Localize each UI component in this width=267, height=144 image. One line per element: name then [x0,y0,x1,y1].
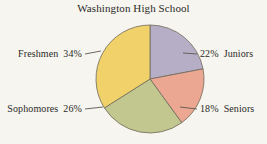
slice-label-seniors-percent: 18% [200,103,219,114]
slice-label-sophomores-name: Sophomores [7,103,58,114]
slice-label-juniors-percent: 22% [200,48,219,59]
slice-label-seniors-name: Seniors [224,103,255,114]
pie-chart-graphic [0,0,267,144]
slice-label-freshmen-name: Freshmen [18,48,58,59]
leader-line-sophomores [85,107,103,109]
leader-line-freshmen [85,51,101,54]
pie-chart-figure: Washington High School Freshmen34% Sopho… [0,0,267,144]
slice-label-sophomores-percent: 26% [63,103,82,114]
slice-label-freshmen-percent: 34% [63,48,82,59]
slice-label-sophomores: Sophomores26% [2,103,82,114]
slice-label-juniors: 22%Juniors [200,48,266,59]
slice-label-freshmen: Freshmen34% [6,48,82,59]
slice-label-seniors: 18%Seniors [200,103,266,114]
slice-label-juniors-name: Juniors [224,48,254,59]
